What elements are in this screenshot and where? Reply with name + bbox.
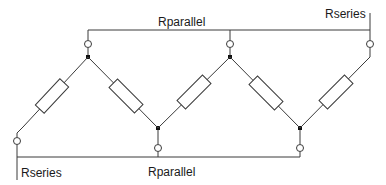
resistor-3 xyxy=(177,75,211,109)
resistor-4 xyxy=(249,76,283,110)
resistors xyxy=(35,75,353,113)
resistor-1 xyxy=(35,79,68,114)
resistor-2 xyxy=(109,79,143,113)
terminal-node xyxy=(297,145,304,152)
circuit-diagram: Rparallel Rseries Rseries Rparallel xyxy=(0,0,386,185)
terminal-node xyxy=(85,41,92,48)
resistor-5 xyxy=(319,75,353,109)
top-terminals xyxy=(85,41,374,64)
label-top-parallel: Rparallel xyxy=(158,15,205,29)
label-bottom-parallel: Rparallel xyxy=(148,165,195,179)
bottom-terminals xyxy=(14,126,304,152)
terminal-node xyxy=(367,41,374,48)
label-bottom-series: Rseries xyxy=(21,166,62,180)
label-top-series: Rseries xyxy=(325,7,366,21)
terminal-node xyxy=(227,41,234,48)
terminal-node xyxy=(155,145,162,152)
terminal-node xyxy=(14,138,21,145)
